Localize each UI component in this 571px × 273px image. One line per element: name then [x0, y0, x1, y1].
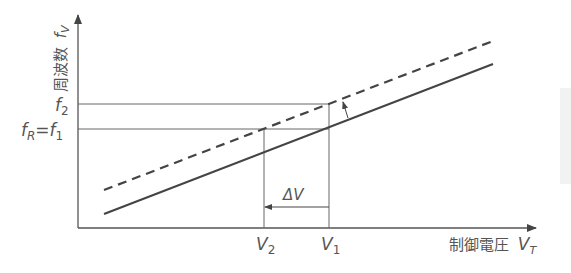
x-axis-label: 制御電圧 VT [449, 234, 537, 257]
v1-tick-label: V1 [321, 234, 340, 257]
fr-equals-f1-tick-label: fR=f1 [21, 120, 63, 143]
v2-tick-label: V2 [256, 234, 275, 257]
y-axis-label: 周波数 fV [52, 24, 72, 92]
f2-tick-label: f2 [55, 95, 69, 118]
delta-v-label: ΔV [282, 186, 305, 204]
shift-arrow-icon [343, 102, 348, 118]
vco-characteristic-diagram: ΔV 周波数 fV f2 fR=f1 V2 V1 制御電圧 VT [0, 0, 571, 273]
dashed-characteristic-line [104, 41, 493, 190]
svg-text:周波数 fV: 周波数 fV [52, 24, 72, 92]
